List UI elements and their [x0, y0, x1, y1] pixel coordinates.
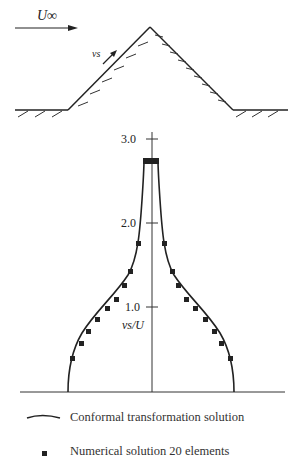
freestream-label: U∞ — [37, 8, 57, 24]
legend-line-icon — [27, 416, 60, 419]
figure-canvas — [0, 0, 300, 463]
legend-line-label: Conformal transformation solution — [70, 410, 244, 425]
y-tick-1: 1.0 — [125, 300, 140, 315]
legend-marker-label: Numerical solution 20 elements — [70, 444, 229, 459]
legend-marker-icon — [42, 451, 47, 456]
body-diagram — [15, 27, 288, 110]
conformal-curve-left — [68, 160, 144, 392]
freestream-arrow-icon — [15, 25, 78, 31]
surface-velocity-label: vs — [92, 48, 100, 59]
conformal-curve-right — [158, 160, 234, 392]
y-tick-3: 3.0 — [121, 132, 136, 147]
hatching — [18, 35, 278, 117]
y-tick-2: 2.0 — [121, 216, 136, 231]
y-axis-label: vs/U — [122, 318, 144, 333]
